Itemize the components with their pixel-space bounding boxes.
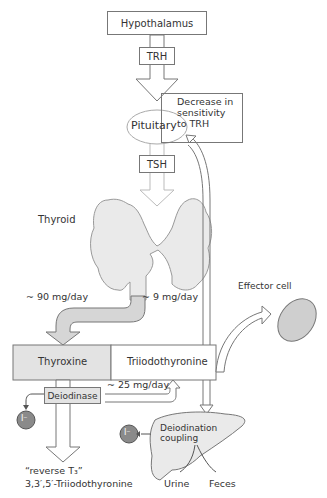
iodide-label-liver: I⁻ xyxy=(124,428,131,437)
t3-rate-label: ~ 9 mg/day xyxy=(142,292,198,303)
deiodination-line2: coupling xyxy=(160,434,217,444)
iodide-release-arrow xyxy=(26,394,44,406)
trh-arrow xyxy=(136,35,178,101)
trh-label: TRH xyxy=(147,51,168,62)
conversion-rate-label: ~ 25 mg/day xyxy=(107,380,169,391)
tsh-arrow xyxy=(140,143,174,206)
hypothalamus-label: Hypothalamus xyxy=(121,18,194,29)
thyroid-gland-shape xyxy=(91,199,212,300)
tsh-label: TSH xyxy=(147,159,167,170)
deiodinase-label: Deiodinase xyxy=(47,391,97,401)
iodide-label-left: I⁻ xyxy=(21,414,28,423)
trh-box: TRH xyxy=(139,47,175,65)
thyroxine-output-arrow xyxy=(46,296,145,345)
hypothalamus-box: Hypothalamus xyxy=(107,11,207,35)
urine-label: Urine xyxy=(164,479,189,490)
reverse-t3-label: “reverse T₃” xyxy=(25,466,83,477)
feedback-note-box: Decrease in sensitivity to TRH xyxy=(161,93,243,143)
pituitary-label: Pituitary xyxy=(131,120,177,133)
tsh-box: TSH xyxy=(139,155,175,173)
feedback-note-line3: to TRH xyxy=(177,119,242,130)
triiodothyronine-label: Triiodothyronine xyxy=(127,356,208,368)
effector-cell-label: Effector cell xyxy=(238,281,291,291)
thyroid-label: Thyroid xyxy=(38,214,76,226)
effector-arrow xyxy=(216,306,271,372)
effector-cell-shape xyxy=(270,291,324,348)
thyroxine-rate-label: ~ 90 mg/day xyxy=(26,292,88,303)
deiodination-coupling-label: Deiodination coupling xyxy=(160,424,217,444)
feces-label: Feces xyxy=(209,479,236,490)
reverse-t3-chemical-name: 3,3′,5′-Triiodothyronine xyxy=(25,479,133,490)
iodide-release-arrowhead xyxy=(23,405,29,410)
thyroxine-label: Thyroxine xyxy=(38,356,87,368)
deiodinase-box: Deiodinase xyxy=(44,387,101,404)
